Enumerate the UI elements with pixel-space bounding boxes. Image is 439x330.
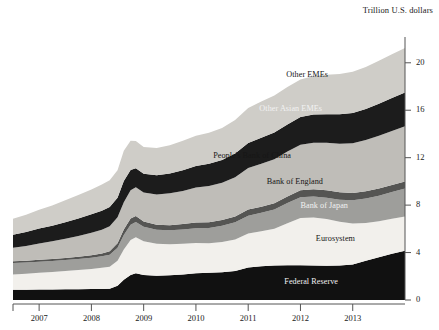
y-tick-label-4: 4: [416, 247, 420, 257]
x-tick-label-2009: 2009: [124, 313, 164, 323]
y-axis-title: Trillion U.S. dollars: [363, 5, 433, 15]
x-tick-label-2008: 2008: [71, 313, 111, 323]
x-tick-label-2010: 2010: [176, 313, 216, 323]
y-tick-label-20: 20: [416, 57, 425, 67]
area-layers: [13, 48, 405, 300]
stacked-area-plot: [0, 0, 439, 330]
x-tick-label-2007: 2007: [19, 313, 59, 323]
chart-container: Trillion U.S. dollars 048121620 20072008…: [0, 0, 439, 330]
x-tick-label-2012: 2012: [280, 313, 320, 323]
y-tick-label-16: 16: [416, 104, 425, 114]
x-tick-label-2013: 2013: [333, 313, 373, 323]
y-tick-label-0: 0: [416, 294, 420, 304]
x-tick-label-2011: 2011: [228, 313, 268, 323]
y-tick-label-12: 12: [416, 152, 425, 162]
y-tick-label-8: 8: [416, 199, 420, 209]
